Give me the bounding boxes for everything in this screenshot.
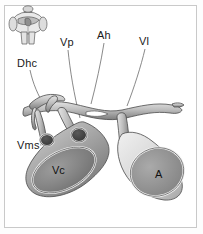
inset-head <box>23 6 33 12</box>
inset-legs <box>21 32 27 44</box>
label-vms: Vms <box>17 140 40 151</box>
inset-arm-left <box>9 17 17 31</box>
body-orientation-inset <box>6 3 50 47</box>
label-vc: Vc <box>52 164 65 176</box>
leader-ah <box>91 43 104 104</box>
label-dhc: Dhc <box>17 58 37 69</box>
inset-arm-right <box>39 17 47 31</box>
label-vl: Vl <box>139 36 149 47</box>
vessel-right-terminal-fork <box>172 103 184 107</box>
label-vp: Vp <box>60 37 74 48</box>
label-a: A <box>155 168 162 180</box>
label-ah: Ah <box>97 30 111 41</box>
leader-vl <box>127 49 145 106</box>
inset-legs-right <box>29 32 35 44</box>
figure-container: Dhc Vp Ah Vl Vms Vc A <box>0 0 203 234</box>
vessel-cross-sections <box>25 122 190 203</box>
inset-organ-center <box>25 18 31 26</box>
